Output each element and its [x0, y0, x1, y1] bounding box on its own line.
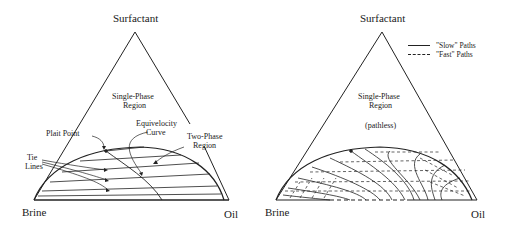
left-tie-lines: [38, 147, 221, 196]
legend-item-slow: "Slow" Paths: [408, 41, 476, 50]
left-region-label: Region: [123, 102, 146, 110]
legend-label-fast: "Fast" Paths: [436, 50, 473, 59]
right-oil-label: Oil: [471, 209, 485, 220]
left-single-phase-label: Single-Phase: [112, 93, 154, 101]
legend-label-slow: "Slow" Paths: [436, 41, 476, 50]
left-binodal-curve: [34, 147, 224, 200]
pathless-note: (pathless): [365, 122, 396, 130]
equivelocity-curve-label: Curve: [146, 129, 166, 137]
slow-paths: [283, 149, 460, 200]
left-brine-label: Brine: [22, 207, 46, 218]
right-single-phase-label: Single-Phase: [358, 93, 400, 101]
right-region-label: Region: [369, 102, 392, 110]
diagram-graphics: [0, 0, 508, 233]
two-phase-label: Two-Phase: [187, 133, 222, 141]
left-apex-label-surfactant: Surfactant: [113, 13, 158, 24]
two-phase-region-label: Region: [193, 142, 216, 150]
left-equivelocity-curve: [106, 151, 162, 200]
legend-item-fast: "Fast" Paths: [408, 50, 473, 59]
right-apex-label-surfactant: Surfactant: [360, 13, 405, 24]
equivelocity-label: Equivelocity: [136, 120, 177, 128]
plait-point-label: Plait Point: [46, 130, 80, 138]
tie-lines-label: Lines: [25, 163, 43, 171]
right-brine-label: Brine: [265, 207, 289, 218]
left-oil-label: Oil: [224, 209, 238, 220]
solid-line-swatch: [408, 45, 430, 46]
dashed-line-swatch: [408, 54, 430, 55]
fast-paths: [285, 152, 472, 198]
ternary-diagrams-figure: Surfactant Single-Phase Region Plait Poi…: [0, 0, 508, 233]
tie-label: Tie: [27, 154, 37, 162]
